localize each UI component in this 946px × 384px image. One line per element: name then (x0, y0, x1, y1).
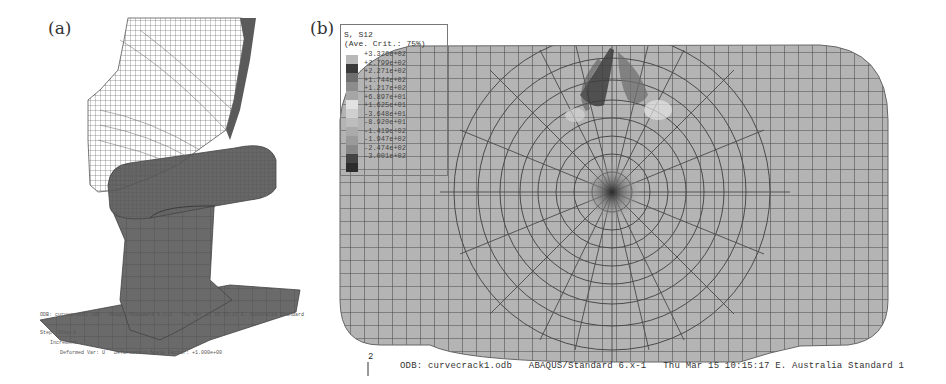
legend-value: -8.920e+01 (364, 118, 406, 127)
legend-values: +3.326e+02 +2.799e+02 +2.271e+02 +1.744e… (364, 50, 406, 161)
legend-title-1: S, S12 (344, 30, 373, 39)
rail-section-contour-mesh (0, 0, 946, 384)
legend-value: -3.648e+01 (364, 110, 406, 119)
legend-value: +1.744e+02 (364, 76, 406, 85)
legend-value: +2.271e+02 (364, 67, 406, 76)
legend-title-2: (Ave. Crit.: 75%) (344, 39, 426, 48)
axis-triad-label: 2 (368, 352, 373, 362)
legend-value: -2.474e+02 (364, 144, 406, 153)
legend-value: +1.625e+01 (364, 101, 406, 110)
legend-value: +2.799e+02 (364, 59, 406, 68)
legend-value: -3.001e+02 (364, 152, 406, 161)
panel-b-footer: ODB: curvecrack1.odb ABAQUS/Standard 6.x… (400, 361, 904, 371)
legend-value: +3.326e+02 (364, 50, 406, 59)
legend-value: +1.217e+02 (364, 84, 406, 93)
legend-value: -1.947e+02 (364, 135, 406, 144)
legend-value: -1.419e+02 (364, 127, 406, 136)
legend-value: +6.897e+01 (364, 93, 406, 102)
